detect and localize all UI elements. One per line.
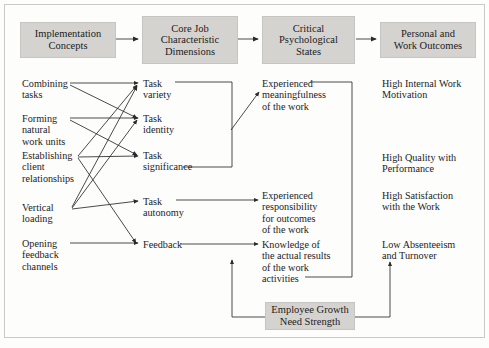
- header-box-label: CriticalPsychologicalStates: [263, 23, 354, 58]
- node-knowledge-of-results: Knowledge ofthe actual resultsof the wor…: [262, 239, 330, 285]
- figure-canvas: ImplementationConcepts Core JobCharacter…: [0, 0, 489, 348]
- node-task-identity: Taskidentity: [143, 113, 174, 136]
- moderator-box-employee-growth-need-strength: Employee GrowthNeed Strength: [265, 302, 355, 330]
- moderator-left-riser: [232, 260, 265, 317]
- node-task-variety: Taskvariety: [143, 78, 171, 101]
- frame-right-rule: [484, 4, 485, 338]
- arrow-bracket-to-meaningfulness: [231, 92, 259, 130]
- link-forming-units-task-significance: [70, 120, 137, 155]
- moderator-box-label: Employee GrowthNeed Strength: [271, 304, 348, 327]
- header-box-label: ImplementationConcepts: [21, 28, 115, 51]
- link-client-relationships-feedback: [78, 158, 136, 243]
- node-vertical-loading: Verticalloading: [22, 202, 54, 225]
- node-combining-tasks: Combiningtasks: [22, 78, 68, 101]
- link-vertical-loading-task-variety: [72, 86, 137, 207]
- node-establishing-client-relationships: Establishingclientrelationships: [22, 150, 74, 184]
- node-experienced-meaningfulness: Experiencedmeaningfulnessof the work: [262, 78, 326, 112]
- frame-top-rule: [4, 4, 485, 5]
- link-client-relationships-task-variety: [78, 85, 137, 156]
- header-box-critical-psychological-states: CriticalPsychologicalStates: [262, 16, 355, 64]
- link-vertical-loading-task-identity: [72, 120, 137, 208]
- node-opening-feedback-channels: Openingfeedbackchannels: [22, 238, 59, 272]
- node-high-internal-work-motivation: High Internal WorkMotivation: [382, 78, 461, 101]
- header-box-personal-and-work-outcomes: Personal andWork Outcomes: [380, 22, 476, 58]
- node-low-absenteeism-and-turnover: Low Absenteeismand Turnover: [382, 239, 455, 262]
- header-box-implementation-concepts: ImplementationConcepts: [20, 22, 116, 58]
- node-high-satisfaction-with-the-work: High Satisfactionwith the Work: [382, 190, 453, 213]
- header-box-core-job-characteristic-dimensions: Core JobCharacteristicDimensions: [142, 16, 238, 64]
- node-task-significance: Tasksignificance: [143, 150, 192, 173]
- frame-bottom-rule: [4, 337, 485, 338]
- node-experienced-responsibility: Experiencedresponsibilityfor outcomesof …: [262, 190, 317, 236]
- frame-left-rule: [4, 4, 5, 338]
- link-vertical-loading-task-autonomy: [72, 201, 138, 209]
- link-combining-tasks-task-identity: [70, 85, 137, 118]
- node-high-quality-with-performance: High Quality withPerformance: [382, 152, 456, 175]
- link-client-relationships-task-significance: [78, 156, 138, 157]
- node-feedback: Feedback: [143, 239, 182, 250]
- header-box-label: Personal andWork Outcomes: [381, 28, 475, 51]
- node-forming-natural-work-units: Formingnaturalwork units: [22, 113, 65, 147]
- node-task-autonomy: Taskautonomy: [143, 196, 184, 219]
- moderator-right-riser: [355, 262, 390, 317]
- header-box-label: Core JobCharacteristicDimensions: [143, 23, 237, 58]
